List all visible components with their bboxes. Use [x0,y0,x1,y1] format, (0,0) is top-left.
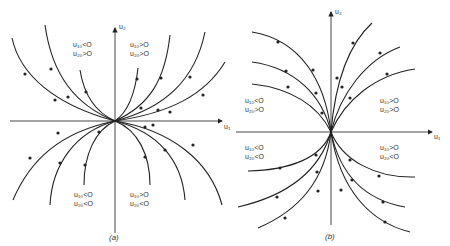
trajectories-b-upper [252,23,415,132]
quadrant-label-b-bottom-left: u₁₀<O u₂₀<O [245,143,264,161]
caption-b: (b) [325,232,335,241]
trajectories-a-lower [13,121,222,205]
panel-b [236,12,432,232]
quadrant-label-a-bottom-left: u₁₀<O u₂₀<O [74,190,93,208]
quadrant-label-b-top-right: u₁₀>O u₂₀>O [380,96,399,114]
u1-axis-label-b: u₁ [434,133,440,140]
quadrant-label-a-bottom-right: u₁₀>O u₂₀<O [130,190,149,208]
panel-a [10,25,225,233]
u2-axis-label-a: u₂ [119,23,126,30]
caption-a: (a) [109,233,119,242]
u1-axis-label-a: u₁ [224,123,230,130]
quadrant-label-a-top-right: u₁₀>O u₂₀>O [130,40,149,58]
trajectories-a-upper [12,25,225,121]
quadrant-label-b-bottom-right: u₁₀>O u₂₀<O [380,143,399,161]
u2-axis-label-b: u₂ [335,8,342,15]
quadrant-label-b-top-left: u₁₀<O u₂₀>O [245,96,264,114]
quadrant-label-a-top-left: u₁₀<O u₂₀>O [73,40,92,58]
direction-arrows-a [23,67,204,166]
